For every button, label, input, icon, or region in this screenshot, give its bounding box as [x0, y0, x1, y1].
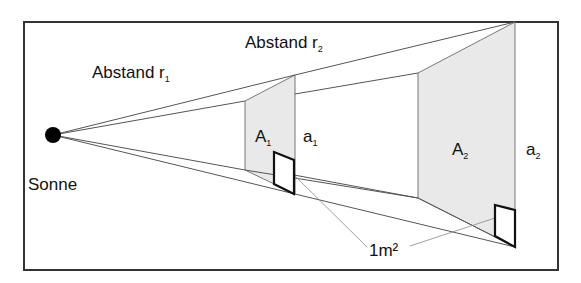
- sun-icon: [45, 127, 61, 143]
- radiation-distance-diagram: Abstand r1 Abstand r2 Sonne A1 a1 A2 a2 …: [0, 0, 581, 283]
- label-sun: Sonne: [28, 175, 77, 194]
- label-distance-r1: Abstand r1: [92, 63, 170, 84]
- label-distance-r2: Abstand r2: [245, 33, 323, 54]
- label-unit-square: 1m²: [369, 241, 399, 260]
